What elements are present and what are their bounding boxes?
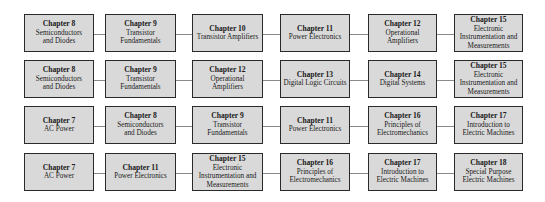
connector-line	[437, 126, 454, 127]
chapter-title: Electronic Instrumentation and Measureme…	[458, 71, 520, 96]
chapter-box: Chapter 7AC Power	[24, 106, 94, 144]
connector-line	[350, 126, 368, 127]
chapter-title: Semiconductors and Diodes	[34, 29, 84, 46]
chapter-title: Semiconductors and Diodes	[115, 121, 165, 138]
chapter-box: Chapter 8Semiconductors and Diodes	[105, 106, 176, 144]
chapter-number: Chapter 7	[43, 164, 76, 173]
chapter-number: Chapter 12	[209, 66, 245, 75]
chapter-number: Chapter 9	[124, 66, 157, 75]
chapter-title: Principles of Electromechanics	[375, 121, 430, 138]
chapter-box: Chapter 15Electronic Instrumentation and…	[454, 60, 523, 98]
connector-line	[94, 34, 105, 35]
connector-line	[94, 80, 105, 81]
chapter-number: Chapter 12	[384, 20, 420, 29]
sequence-row-4: Chapter 7AC PowerChapter 11Power Electro…	[0, 153, 545, 195]
connector-line	[263, 80, 280, 81]
chapter-number: Chapter 14	[384, 71, 420, 80]
connector-line	[176, 126, 192, 127]
chapter-number: Chapter 9	[211, 112, 244, 121]
chapter-box: Chapter 9Transistor Fundamentals	[105, 14, 176, 52]
chapter-box: Chapter 11Power Electronics	[105, 153, 176, 191]
chapter-title: AC Power	[42, 172, 76, 180]
chapter-number: Chapter 8	[124, 112, 157, 121]
chapter-title: Digital Systems	[378, 79, 428, 87]
chapter-number: Chapter 17	[470, 112, 506, 121]
connector-line	[176, 34, 192, 35]
chapter-title: Power Electronics	[112, 172, 169, 180]
connector-line	[176, 173, 192, 174]
chapter-box: Chapter 12Operational Amplifiers	[368, 14, 437, 52]
chapter-number: Chapter 10	[209, 25, 245, 34]
chapter-number: Chapter 7	[43, 117, 76, 126]
chapter-title: Transistor Fundamentals	[205, 121, 249, 138]
connector-line	[350, 34, 368, 35]
chapter-box: Chapter 17Introduction to Electric Machi…	[368, 153, 437, 191]
chapter-box: Chapter 7AC Power	[24, 153, 94, 191]
chapter-box: Chapter 15Electronic Instrumentation and…	[192, 153, 263, 191]
chapter-box: Chapter 8Semiconductors and Diodes	[24, 60, 94, 98]
chapter-box: Chapter 17Introduction to Electric Machi…	[454, 106, 523, 144]
chapter-number: Chapter 11	[297, 117, 333, 126]
connector-line	[350, 80, 368, 81]
chapter-box: Chapter 10Transistor Amplifiers	[192, 14, 263, 52]
chapter-title: Electronic Instrumentation and Measureme…	[458, 25, 520, 50]
chapter-box: Chapter 11Power Electronics	[280, 14, 350, 52]
chapter-box: Chapter 12Operational Amplifiers	[192, 60, 263, 98]
sequence-row-2: Chapter 8Semiconductors and DiodesChapte…	[0, 60, 545, 102]
connector-line	[176, 80, 192, 81]
sequence-row-3: Chapter 7AC PowerChapter 8Semiconductors…	[0, 106, 545, 148]
chapter-number: Chapter 8	[43, 66, 76, 75]
chapter-title: Operational Amplifiers	[384, 29, 422, 46]
chapter-box: Chapter 15Electronic Instrumentation and…	[454, 14, 523, 52]
chapter-number: Chapter 15	[470, 16, 506, 25]
chapter-title: Transistor Fundamentals	[118, 75, 162, 92]
connector-line	[437, 80, 454, 81]
connector-line	[263, 173, 280, 174]
chapter-number: Chapter 15	[209, 155, 245, 164]
connector-line	[263, 34, 280, 35]
chapter-title: AC Power	[42, 125, 76, 133]
chapter-box: Chapter 14Digital Systems	[368, 60, 437, 98]
chapter-title: Introduction to Electric Machines	[374, 168, 430, 185]
chapter-title: Power Electronics	[287, 33, 344, 41]
connector-line	[94, 173, 105, 174]
chapter-number: Chapter 11	[123, 164, 159, 173]
chapter-number: Chapter 9	[124, 20, 157, 29]
chapter-title: Electronic Instrumentation and Measureme…	[197, 164, 259, 189]
chapter-number: Chapter 15	[470, 62, 506, 71]
chapter-title: Special Purpose Electric Machines	[460, 168, 516, 185]
chapter-title: Operational Amplifiers	[209, 75, 247, 92]
connector-line	[437, 34, 454, 35]
chapter-title: Semiconductors and Diodes	[34, 75, 84, 92]
chapter-box: Chapter 11Power Electronics	[280, 106, 350, 144]
chapter-box: Chapter 8Semiconductors and Diodes	[24, 14, 94, 52]
connector-line	[263, 126, 280, 127]
chapter-title: Transistor Fundamentals	[118, 29, 162, 46]
chapter-number: Chapter 8	[43, 20, 76, 29]
connector-line	[94, 126, 105, 127]
chapter-box: Chapter 9Transistor Fundamentals	[105, 60, 176, 98]
chapter-number: Chapter 16	[384, 112, 420, 121]
chapter-box: Chapter 9Transistor Fundamentals	[192, 106, 263, 144]
chapter-box: Chapter 16Principles of Electromechanics	[280, 153, 350, 191]
chapter-title: Transistor Amplifiers	[195, 33, 260, 41]
chapter-number: Chapter 11	[297, 25, 333, 34]
chapter-number: Chapter 17	[384, 159, 420, 168]
connector-line	[437, 173, 454, 174]
chapter-box: Chapter 16Principles of Electromechanics	[368, 106, 437, 144]
chapter-box: Chapter 18Special Purpose Electric Machi…	[454, 153, 523, 191]
chapter-title: Introduction to Electric Machines	[460, 121, 516, 138]
chapter-number: Chapter 13	[297, 71, 333, 80]
chapter-title: Power Electronics	[287, 125, 344, 133]
sequence-row-1: Chapter 8Semiconductors and DiodesChapte…	[0, 14, 545, 56]
chapter-title: Digital Logic Circuits	[281, 79, 348, 87]
chapter-number: Chapter 18	[470, 159, 506, 168]
chapter-box: Chapter 13Digital Logic Circuits	[280, 60, 350, 98]
connector-line	[350, 173, 368, 174]
chapter-number: Chapter 16	[297, 159, 333, 168]
chapter-title: Principles of Electromechanics	[287, 168, 342, 185]
